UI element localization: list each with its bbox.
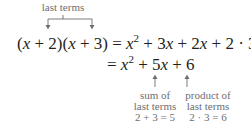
product-annotation: product of last terms 2 · 3 = 6 [180, 90, 236, 123]
term-5: + 5 [134, 55, 161, 74]
var-x: x [68, 34, 76, 53]
term-6: + 6 [168, 55, 195, 74]
equals-sign: = [112, 34, 122, 53]
equation-line-1: (x + 2)(x + 3) = x2 + 3x + 2x + 2 · 3 [17, 35, 251, 52]
var-x: x [160, 55, 168, 74]
sum-annotation-line-3: 2 + 3 = 5 [130, 112, 180, 123]
lhs-mid: + 2)( [30, 34, 68, 53]
term-product: + 2 · 3 [207, 34, 251, 53]
lhs-close: + 3) [76, 34, 108, 53]
equation-line-2: = x2 + 5x + 6 [107, 56, 195, 73]
product-annotation-line-3: 2 · 3 = 6 [180, 112, 236, 123]
up-arrows [155, 77, 187, 87]
equals-sign: = [107, 55, 117, 74]
sum-annotation: sum of last terms 2 + 3 = 5 [130, 90, 180, 123]
term-3: + 3 [139, 34, 166, 53]
var-x: x [126, 34, 134, 53]
term-2: + 2 [173, 34, 200, 53]
